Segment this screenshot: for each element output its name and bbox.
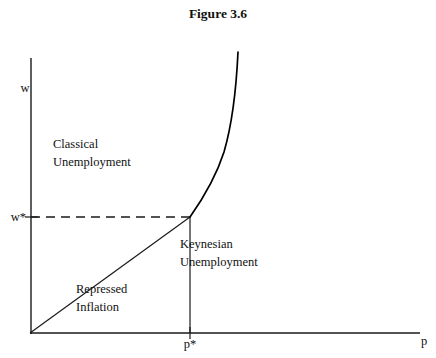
classical-line-2: Unemployment xyxy=(53,155,131,169)
keynesian-line-1: Keynesian xyxy=(180,237,234,251)
x-tick-label-p-star: p* xyxy=(184,337,197,351)
figure-container: Figure 3.6 w p w* p* Classical Unemploym… xyxy=(0,0,436,358)
x-axis-label: p xyxy=(421,334,427,348)
supply-curve xyxy=(190,52,238,217)
y-axis-label: w xyxy=(20,81,29,95)
figure-3-6-diagram: Figure 3.6 w p w* p* Classical Unemploym… xyxy=(0,0,436,358)
figure-title: Figure 3.6 xyxy=(189,6,247,21)
y-tick-label-w-star: w* xyxy=(11,210,26,224)
region-label-classical-unemployment: Classical Unemployment xyxy=(53,137,131,169)
region-label-keynesian-unemployment: Keynesian Unemployment xyxy=(180,237,258,269)
ray-from-origin xyxy=(30,217,190,333)
repressed-line-2: Inflation xyxy=(76,300,120,314)
region-label-repressed-inflation: Repressed Inflation xyxy=(76,282,128,314)
keynesian-line-2: Unemployment xyxy=(180,255,258,269)
classical-line-1: Classical xyxy=(53,137,99,151)
repressed-line-1: Repressed xyxy=(76,282,128,296)
